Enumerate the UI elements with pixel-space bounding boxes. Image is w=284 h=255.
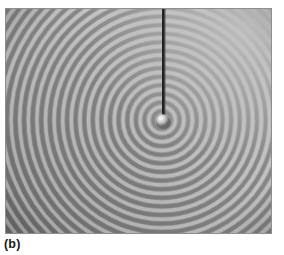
ripple-tank-photograph: [5, 8, 272, 234]
figure-caption-label: (b): [4, 237, 21, 252]
figure-root: (b): [0, 0, 284, 255]
photo-canvas: [5, 8, 272, 234]
